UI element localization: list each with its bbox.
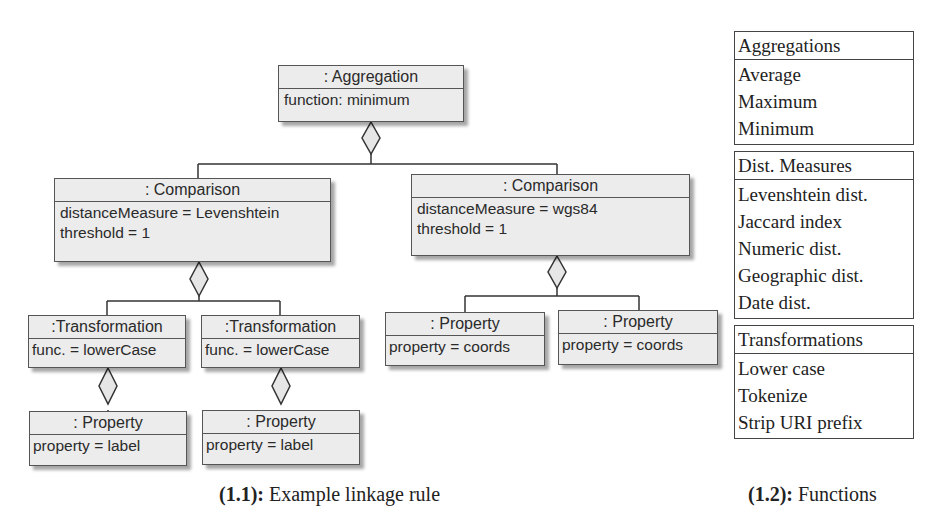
function-item: Geographic dist.: [735, 262, 913, 289]
function-item: Lower case: [735, 355, 913, 382]
caption-label: (1.2):: [748, 483, 793, 505]
node-title: : Property: [203, 411, 359, 434]
node-attribute: function: minimum: [284, 90, 463, 110]
comparison-node-right: : Comparison distanceMeasure = wgs84 thr…: [411, 174, 690, 256]
aggregation-diamond-icon: [190, 262, 208, 296]
function-group-distance-measures: Dist. Measures Levenshtein dist. Jaccard…: [734, 151, 914, 319]
node-attribute: property = label: [33, 436, 186, 456]
node-title: :Transformation: [29, 316, 185, 339]
property-node-2: : Property property = label: [202, 410, 360, 465]
group-header: Aggregations: [735, 32, 913, 60]
transformation-node-2: :Transformation func. = lowerCase: [201, 315, 360, 368]
function-group-aggregations: Aggregations Average Maximum Minimum: [734, 31, 914, 145]
function-group-transformations: Transformations Lower case Tokenize Stri…: [734, 325, 914, 439]
figure-caption-linkage-rule: (1.1): Example linkage rule: [219, 483, 440, 506]
node-attribute: property = coords: [389, 337, 544, 357]
node-attribute: func. = lowerCase: [32, 340, 185, 360]
aggregation-diamond-icon: [99, 368, 117, 404]
node-title: : Property: [30, 412, 186, 435]
property-node-4: : Property property = coords: [558, 310, 718, 365]
property-node-1: : Property property = label: [29, 411, 187, 466]
caption-text: Example linkage rule: [264, 483, 440, 505]
aggregation-node: : Aggregation function: minimum: [278, 65, 464, 122]
node-attribute: distanceMeasure = Levenshtein: [60, 203, 330, 223]
function-item: Tokenize: [735, 382, 913, 409]
node-attribute: property = label: [206, 435, 359, 455]
functions-table: Aggregations Average Maximum Minimum Dis…: [734, 31, 914, 445]
node-title: : Property: [559, 311, 717, 334]
function-item: Maximum: [735, 88, 913, 115]
aggregation-diamond-icon: [362, 122, 380, 154]
property-node-3: : Property property = coords: [385, 312, 545, 366]
function-item: Levenshtein dist.: [735, 181, 913, 208]
aggregation-diamond-icon: [272, 368, 290, 404]
group-header: Transformations: [735, 326, 913, 354]
node-attribute: func. = lowerCase: [205, 340, 359, 360]
function-item: Average: [735, 61, 913, 88]
node-title: :Transformation: [202, 316, 359, 339]
node-title: : Aggregation: [279, 66, 463, 89]
group-header: Dist. Measures: [735, 152, 913, 180]
aggregation-diamond-icon: [548, 256, 566, 288]
caption-label: (1.1):: [219, 483, 264, 505]
function-item: Strip URI prefix: [735, 409, 913, 436]
function-item: Numeric dist.: [735, 235, 913, 262]
node-title: : Property: [386, 313, 544, 336]
node-title: : Comparison: [412, 175, 689, 198]
caption-text: Functions: [793, 483, 877, 505]
transformation-node-1: :Transformation func. = lowerCase: [28, 315, 186, 368]
node-attribute: distanceMeasure = wgs84: [417, 199, 689, 219]
comparison-node-left: : Comparison distanceMeasure = Levenshte…: [54, 178, 331, 262]
figure-caption-functions: (1.2): Functions: [748, 483, 877, 506]
node-attribute: property = coords: [562, 335, 717, 355]
node-attribute: threshold = 1: [417, 219, 689, 239]
function-item: Minimum: [735, 115, 913, 142]
function-item: Date dist.: [735, 289, 913, 316]
node-attribute: threshold = 1: [60, 223, 330, 243]
function-item: Jaccard index: [735, 208, 913, 235]
node-title: : Comparison: [55, 179, 330, 202]
